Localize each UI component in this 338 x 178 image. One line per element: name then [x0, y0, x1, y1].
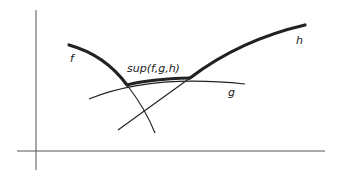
label-sup: sup(f,g,h) — [127, 62, 180, 75]
label-g: g — [228, 86, 235, 99]
curve-g — [89, 81, 245, 99]
sup-diagram: f sup(f,g,h) g h — [0, 0, 338, 178]
curve-f-upper — [69, 45, 127, 85]
curve-h-upper — [190, 25, 305, 78]
label-h: h — [296, 34, 303, 47]
curve-f-lower — [127, 85, 155, 133]
label-f: f — [70, 52, 76, 65]
